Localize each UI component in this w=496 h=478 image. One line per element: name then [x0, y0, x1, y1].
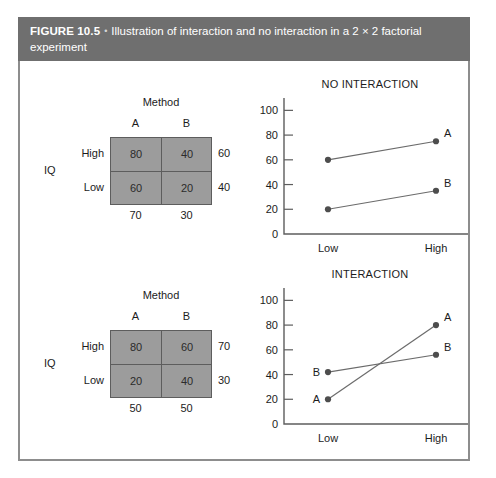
no-interaction-matrix: Method A B IQ High Low 80 40 60 20 60 40…: [22, 96, 222, 246]
interaction-chart: INTERACTION 020406080100 LowHigh AABB: [240, 268, 470, 448]
matrix-cell-high-b: 40: [162, 138, 212, 171]
y-axis-tick-label: 0: [272, 228, 278, 240]
y-axis-tick-label: 40: [266, 179, 278, 191]
series-label-a: A: [444, 311, 452, 323]
series-line-b: [328, 191, 436, 210]
axis-lines: [284, 288, 468, 424]
chart-axes: [284, 98, 468, 234]
y-axis-tick-label: 100: [260, 104, 278, 116]
matrix-column-mean-a: 70: [110, 209, 161, 221]
series-label-a: A: [444, 127, 452, 139]
series-label-b: B: [444, 177, 451, 189]
matrix-row-factor-label: IQ: [44, 357, 56, 369]
data-point-a-low: [325, 396, 331, 402]
y-axis-tick-label: 80: [266, 319, 278, 331]
matrix-column-factor-label: Method: [110, 96, 212, 108]
matrix-row-factor-label: IQ: [44, 164, 56, 176]
x-axis-tick-label: High: [425, 242, 448, 254]
series-line-b: [328, 355, 436, 372]
x-axis-tick-label: Low: [318, 242, 338, 254]
matrix-column-mean-b: 30: [161, 209, 212, 221]
matrix-column-header-b: B: [161, 117, 212, 129]
series-line-a: [328, 141, 436, 160]
x-axis-tick-label: Low: [318, 432, 338, 444]
y-axis-tick-label: 100: [260, 294, 278, 306]
matrix-column-header-a: A: [110, 117, 161, 129]
y-axis-tick-labels: 020406080100: [260, 104, 278, 240]
y-axis-tick-label: 20: [266, 393, 278, 405]
x-axis-tick-label: High: [425, 432, 448, 444]
y-axis-ticks: [284, 300, 293, 399]
y-axis-tick-label: 20: [266, 203, 278, 215]
matrix-grid: 80 60 20 40: [110, 330, 212, 398]
chart-series-layer: AB: [325, 127, 452, 212]
matrix-cell-low-b: 20: [162, 172, 212, 205]
series-label-left-b: B: [313, 366, 320, 378]
series-label-b: B: [444, 341, 451, 353]
y-axis-tick-label: 80: [266, 129, 278, 141]
figure-content: Method A B IQ High Low 80 40 60 20 60 40…: [0, 0, 496, 478]
data-point-b-high: [433, 352, 439, 358]
series-line-a: [328, 325, 436, 399]
chart-plot: 020406080100 LowHigh AABB: [240, 268, 470, 448]
matrix-row-header-high: High: [60, 330, 104, 363]
y-axis-tick-label: 60: [266, 154, 278, 166]
data-point-a-high: [433, 138, 439, 144]
matrix-row-header-low: Low: [60, 171, 104, 204]
series-label-left-a: A: [313, 393, 321, 405]
y-axis-tick-label: 0: [272, 418, 278, 430]
matrix-cell-low-a: 20: [111, 365, 161, 398]
y-axis-ticks: [284, 110, 293, 209]
matrix-cell-low-a: 60: [111, 172, 161, 205]
matrix-cell-low-b: 40: [162, 365, 212, 398]
matrix-column-mean-b: 50: [161, 402, 212, 414]
chart-series-layer: AABB: [313, 311, 452, 405]
data-point-b-high: [433, 188, 439, 194]
matrix-row-header-low: Low: [60, 364, 104, 397]
matrix-column-mean-a: 50: [110, 402, 161, 414]
interaction-matrix: Method A B IQ High Low 80 60 20 40 70 30…: [22, 289, 222, 439]
chart-axes: [284, 288, 468, 424]
y-axis-tick-labels: 020406080100: [260, 294, 278, 430]
matrix-cell-high-a: 80: [111, 138, 161, 171]
x-axis-tick-labels: LowHigh: [318, 432, 447, 444]
data-point-b-low: [325, 369, 331, 375]
y-axis-tick-label: 60: [266, 344, 278, 356]
data-point-b-low: [325, 206, 331, 212]
data-point-a-high: [433, 322, 439, 328]
matrix-column-header-b: B: [161, 310, 212, 322]
y-axis-tick-label: 40: [266, 369, 278, 381]
matrix-grid: 80 40 60 20: [110, 137, 212, 205]
data-point-a-low: [325, 157, 331, 163]
matrix-cell-high-b: 60: [162, 331, 212, 364]
axis-lines: [284, 98, 468, 234]
matrix-column-factor-label: Method: [110, 289, 212, 301]
matrix-row-header-high: High: [60, 137, 104, 170]
chart-plot: 020406080100 LowHigh AB: [240, 78, 470, 258]
no-interaction-chart: NO INTERACTION 020406080100 LowHigh AB: [240, 78, 470, 258]
matrix-column-header-a: A: [110, 310, 161, 322]
x-axis-tick-labels: LowHigh: [318, 242, 447, 254]
matrix-cell-high-a: 80: [111, 331, 161, 364]
